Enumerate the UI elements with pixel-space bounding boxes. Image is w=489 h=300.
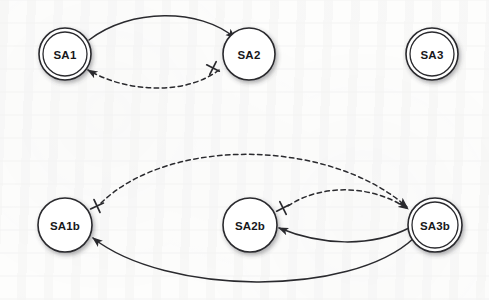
state-node-label: SA1 [54,49,77,61]
state-node-sa2b[interactable]: SA2b [223,198,277,252]
edge-sa2-to-sa1[interactable] [88,62,219,88]
state-node-label: SA3b [420,220,450,232]
state-node-sa3[interactable]: SA3 [406,28,458,80]
state-node-sa3b[interactable]: SA3b [408,198,462,252]
state-node-label: SA2b [235,220,265,232]
edge-sa3b-to-sa2b[interactable] [279,228,409,242]
edge-path-dashed [88,70,219,88]
edge-sa1-to-sa2[interactable] [89,16,235,40]
state-node-sa1b[interactable]: SA1b [38,198,92,252]
edge-path-dashed [288,190,408,209]
state-node-sa1[interactable]: SA1 [39,28,91,80]
graph-canvas: SA1 SA2 SA3 SA1b SA2b [0,0,489,300]
state-node-label: SA2 [238,49,261,61]
state-node-sa2[interactable]: SA2 [223,28,275,80]
cross-marker-icon [207,62,220,75]
nodes-layer: SA1 SA2 SA3 SA1b SA2b [38,28,462,252]
state-node-label: SA1b [50,220,80,232]
edge-path-solid [89,16,235,40]
state-node-label: SA3 [421,49,444,61]
edge-path-solid [279,228,409,242]
cross-marker-icon [277,202,290,215]
state-diagram-figure: SA1 SA2 SA3 SA1b SA2b [0,0,489,300]
